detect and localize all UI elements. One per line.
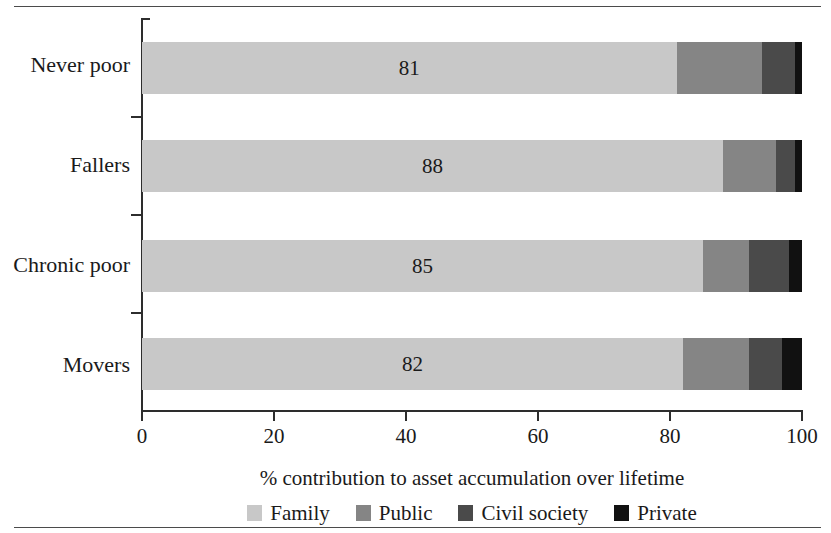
bar-segment-civil-society[interactable] (749, 240, 789, 292)
x-axis-ticklabel-5: 100 (762, 424, 831, 448)
x-axis-ticklabel-4: 80 (630, 424, 710, 448)
x-axis-ticklabel-1: 20 (234, 424, 314, 448)
bar-segment-public[interactable] (677, 42, 763, 94)
figure-top-rule (14, 6, 821, 7)
x-axis-ticklabel-3: 60 (498, 424, 578, 448)
legend-swatch-icon (247, 505, 262, 521)
bar-segment-private[interactable] (782, 338, 802, 390)
bar-segment-public[interactable] (683, 338, 749, 390)
x-axis-tick-2 (405, 410, 407, 421)
bar-row-3: 82 (142, 338, 802, 390)
bar-segment-civil-society[interactable] (762, 42, 795, 94)
legend-label: Civil society (481, 501, 588, 525)
y-axis-label-1: Fallers (0, 152, 130, 178)
legend-item-private[interactable]: Private (614, 501, 696, 525)
y-axis-top-cap (141, 18, 150, 20)
y-axis-tick-2 (131, 312, 142, 314)
x-axis-line (141, 410, 802, 412)
legend-swatch-icon (356, 505, 371, 521)
x-axis-tick-5 (801, 410, 803, 421)
legend-item-family[interactable]: Family (247, 501, 330, 525)
y-axis-tick-0 (131, 116, 142, 118)
bar-segment-civil-society[interactable] (749, 338, 782, 390)
figure-bottom-rule (14, 527, 821, 528)
x-axis-tick-0 (141, 410, 143, 421)
y-axis-label-0: Never poor (0, 52, 130, 78)
y-axis-label-3: Movers (0, 352, 130, 378)
figure: Never poor Fallers Chronic poor Movers 8… (0, 0, 831, 533)
bar-row-2: 85 (142, 240, 802, 292)
legend-label: Private (637, 501, 696, 525)
bar-segment-public[interactable] (723, 140, 776, 192)
y-axis-tick-1 (131, 214, 142, 216)
bar-row-0: 81 (142, 42, 802, 94)
x-axis-tick-4 (669, 410, 671, 421)
bar-0[interactable] (142, 42, 802, 94)
bar-row-1: 88 (142, 140, 802, 192)
bar-value-label-0: 81 (379, 42, 439, 94)
legend-label: Public (379, 501, 433, 525)
bar-value-label-3: 82 (383, 338, 443, 390)
x-axis-ticklabel-0: 0 (102, 424, 182, 448)
bar-segment-private[interactable] (795, 140, 802, 192)
bar-segment-public[interactable] (703, 240, 749, 292)
legend: FamilyPublicCivil societyPrivate (142, 501, 802, 525)
bar-3[interactable] (142, 338, 802, 390)
legend-swatch-icon (458, 505, 473, 521)
x-axis-ticklabel-2: 40 (366, 424, 446, 448)
legend-label: Family (270, 501, 330, 525)
legend-item-public[interactable]: Public (356, 501, 433, 525)
bar-segment-private[interactable] (789, 240, 802, 292)
legend-swatch-icon (614, 505, 629, 521)
x-axis-tick-1 (273, 410, 275, 421)
bar-value-label-2: 85 (393, 240, 453, 292)
bar-value-label-1: 88 (402, 140, 462, 192)
bar-segment-civil-society[interactable] (776, 140, 796, 192)
y-axis-label-2: Chronic poor (0, 252, 130, 278)
bar-segment-private[interactable] (795, 42, 802, 94)
bar-2[interactable] (142, 240, 802, 292)
x-axis-tick-3 (537, 410, 539, 421)
legend-item-civil-society[interactable]: Civil society (458, 501, 588, 525)
bar-1[interactable] (142, 140, 802, 192)
x-axis-title: % contribution to asset accumulation ove… (142, 466, 802, 490)
plot-area: 81 88 85 82 0 20 40 60 80 100 % contribu… (142, 18, 802, 410)
